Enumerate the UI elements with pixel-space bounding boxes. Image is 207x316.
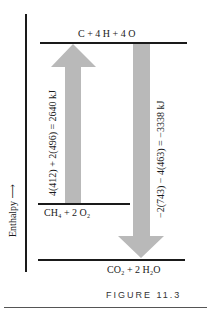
axis-arrow-icon: ⟶	[7, 184, 18, 198]
level-reactants-label: CH₄ + 2 O₂	[44, 207, 90, 218]
level-products-line	[38, 259, 185, 261]
level-top-line	[40, 42, 187, 44]
figure-caption: FIGURE 11.3	[106, 290, 181, 300]
arrows-layer	[0, 0, 207, 316]
enthalpy-axis	[25, 14, 27, 272]
level-top-label: C + 4 H + 4 O	[78, 28, 135, 39]
down-arrow-label: −2(743) − 4(463) = −3338 kJ	[155, 101, 166, 218]
axis-label: Enthalpy ⟶	[7, 184, 18, 237]
up-arrow-label: 4(412) + 2(496) = 2640 kJ	[47, 90, 58, 196]
level-products-label: CO₂ + 2 H₂O	[107, 264, 160, 275]
level-reactants-line	[38, 203, 130, 205]
bottom-rule	[4, 307, 207, 308]
